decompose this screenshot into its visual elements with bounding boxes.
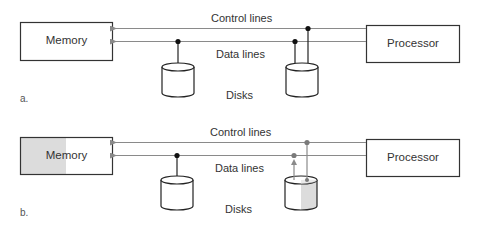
memory-label: Memory [20,34,113,46]
junction-dot [292,39,297,44]
data-lines-label: Data lines [215,162,264,174]
processor-label: Processor [366,37,460,49]
processor-label: Processor [366,151,460,163]
disks-label: Disks [226,89,253,101]
panel-label-b: b. [20,207,28,218]
memory-label: Memory [20,149,113,161]
control-lines-label: Control lines [210,126,271,138]
junction-dot [174,153,179,158]
disks-label: Disks [225,203,252,215]
junction-dot [304,140,309,145]
control-lines-label: Control lines [211,12,272,24]
junction-dot [305,26,310,31]
junction-dot [291,153,296,158]
disk-1 [162,39,194,97]
disk-2 [286,26,318,97]
junction-dot [175,39,180,44]
panel-label-a: a. [20,93,28,104]
disk-2-active [285,140,317,210]
data-lines-label: Data lines [216,48,265,60]
disk-1 [161,153,193,210]
arrow-up-icon [291,159,297,165]
